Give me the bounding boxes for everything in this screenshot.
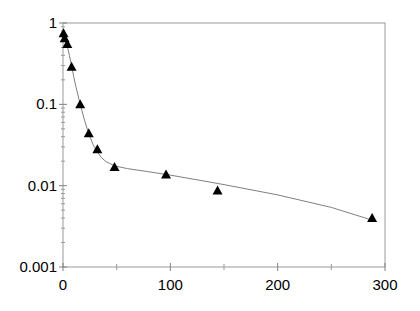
data-markers <box>59 28 378 222</box>
plot-frame <box>63 23 385 267</box>
plot-area-border <box>63 23 385 267</box>
y-tick-label: 0.01 <box>28 177 57 194</box>
triangle-marker <box>213 186 223 195</box>
y-tick-label: 1 <box>49 14 57 31</box>
y-tick-label: 0.001 <box>19 258 57 275</box>
triangle-marker <box>67 62 77 71</box>
x-tick-label: 100 <box>158 276 183 293</box>
chart: 0.0010.010.11 0100200300 <box>0 0 420 311</box>
y-axis-ticks: 0.0010.010.11 <box>19 14 67 275</box>
y-tick-label: 0.1 <box>36 95 57 112</box>
triangle-marker <box>84 128 94 137</box>
x-tick-label: 0 <box>59 276 67 293</box>
x-tick-label: 200 <box>265 276 290 293</box>
triangle-marker <box>367 213 377 222</box>
triangle-marker <box>75 99 85 108</box>
x-tick-label: 300 <box>372 276 397 293</box>
